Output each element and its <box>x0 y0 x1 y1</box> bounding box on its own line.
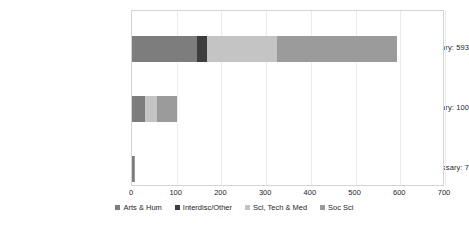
plot-area <box>131 10 444 186</box>
legend-swatch-icon <box>175 205 180 210</box>
legend-label: Arts & Hum <box>123 204 161 212</box>
x-axis-tick-labels: 0100200300400500600700 <box>131 189 444 203</box>
stacked-bar-chart: Very necessary: 593Somewhat necessary: 1… <box>0 0 469 229</box>
bar-segment <box>134 156 135 182</box>
bar-segment <box>132 36 197 62</box>
legend-swatch-icon <box>245 205 250 210</box>
legend-label: Soc Sci <box>328 204 353 212</box>
legend-label: Interdisc/Other <box>183 204 232 212</box>
legend-item[interactable]: Soc Sci <box>320 204 353 212</box>
chart-legend: Arts & HumInterdisc/OtherSci, Tech & Med… <box>0 204 469 212</box>
legend-label: Sci, Tech & Med <box>253 204 307 212</box>
bar-segment <box>197 36 207 62</box>
x-axis-tick: 500 <box>348 189 361 197</box>
bar-row <box>132 156 445 182</box>
x-axis-tick: 400 <box>304 189 317 197</box>
legend-item[interactable]: Interdisc/Other <box>175 204 232 212</box>
x-axis-tick: 100 <box>169 189 182 197</box>
bar-row <box>132 96 445 122</box>
x-axis-tick: 300 <box>259 189 272 197</box>
bar-segment <box>132 96 145 122</box>
legend-item[interactable]: Sci, Tech & Med <box>245 204 307 212</box>
bar-segment <box>145 96 156 122</box>
legend-swatch-icon <box>115 205 120 210</box>
bar-segment <box>157 96 177 122</box>
bar-segment <box>207 36 277 62</box>
bar-row <box>132 36 445 62</box>
legend-swatch-icon <box>320 205 325 210</box>
bar-segment <box>277 36 397 62</box>
x-axis-tick: 600 <box>393 189 406 197</box>
legend-item[interactable]: Arts & Hum <box>115 204 161 212</box>
x-axis-tick: 200 <box>214 189 227 197</box>
gridline-700 <box>445 11 446 185</box>
x-axis-tick: 700 <box>438 189 451 197</box>
x-axis-tick: 0 <box>129 189 133 197</box>
